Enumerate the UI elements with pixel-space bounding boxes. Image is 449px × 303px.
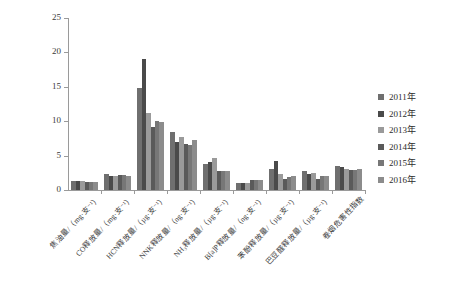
y-axis-tick-label: 15	[52, 80, 61, 93]
legend-label: 2016年	[389, 175, 416, 185]
legend-label: 2014年	[389, 142, 416, 152]
legend-label: 2015年	[389, 158, 416, 168]
legend-swatch-icon	[378, 111, 384, 117]
legend-item: 2016年	[378, 175, 416, 185]
bar	[126, 176, 130, 190]
y-axis-tick-label: 20	[52, 45, 61, 58]
y-axis-tick-label: 10	[52, 114, 61, 127]
bar	[291, 176, 295, 190]
y-axis-tick-label: 25	[52, 11, 61, 24]
legend-item: 2012年	[378, 109, 416, 119]
x-axis-category-label-text: NH₃释放量/（µg·支⁻¹）	[172, 194, 234, 259]
legend-item: 2011年	[378, 92, 416, 102]
legend-item: 2015年	[378, 158, 416, 168]
bar	[93, 182, 97, 190]
legend-label: 2013年	[389, 125, 416, 135]
x-axis-category-label-text: 巴豆醛释放量/（µg·支⁻¹）	[264, 194, 333, 267]
y-axis-tick-label: 0	[57, 183, 62, 196]
x-axis-line	[68, 190, 366, 191]
y-axis-tick-mark	[64, 190, 68, 191]
legend-label: 2011年	[389, 92, 416, 102]
chart-legend: 2011年2012年2013年2014年2015年2016年	[378, 92, 416, 185]
legend-item: 2013年	[378, 125, 416, 135]
legend-label: 2012年	[389, 109, 416, 119]
bar	[324, 176, 328, 190]
legend-swatch-icon	[378, 127, 384, 133]
bar	[225, 171, 229, 190]
bar-chart: 0510152025 焦油量/（mg·支⁻¹）CO释放量/（mg·支⁻¹）HCN…	[0, 0, 449, 303]
bar-group	[68, 18, 101, 190]
x-axis-category-label-text: B[a]P释放量/（ng·支⁻¹）	[203, 194, 267, 262]
x-axis-category-label-text: 苯酚释放量/（µg·支⁻¹）	[236, 194, 299, 261]
bar	[258, 180, 262, 190]
x-axis-category-label-text: HCN释放量/（µg·支⁻¹）	[104, 194, 167, 261]
legend-item: 2014年	[378, 142, 416, 152]
legend-swatch-icon	[378, 177, 384, 183]
x-axis-category-label-text: NNK释放量/（ng·支⁻¹）	[137, 194, 200, 261]
x-axis-category-label-text: CO释放量/（mg·支⁻¹）	[74, 194, 135, 258]
legend-swatch-icon	[378, 160, 384, 166]
y-axis-tick-label: 5	[57, 149, 62, 162]
legend-swatch-icon	[378, 94, 384, 100]
legend-swatch-icon	[378, 144, 384, 150]
